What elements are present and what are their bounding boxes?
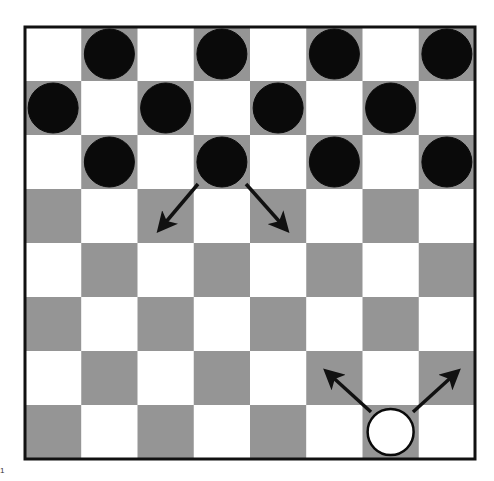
light-square[interactable] <box>306 405 363 460</box>
light-square[interactable] <box>194 405 251 460</box>
light-square[interactable] <box>138 135 195 190</box>
white-checker-piece[interactable] <box>368 409 414 455</box>
light-square[interactable] <box>306 297 363 352</box>
black-checker-piece[interactable] <box>366 83 416 133</box>
light-square[interactable] <box>81 405 138 460</box>
dark-square[interactable] <box>306 243 363 298</box>
light-square[interactable] <box>363 135 420 190</box>
black-checker-piece[interactable] <box>253 83 303 133</box>
light-square[interactable] <box>250 351 307 406</box>
dark-square[interactable] <box>194 351 251 406</box>
dark-square[interactable] <box>25 189 82 244</box>
light-square[interactable] <box>306 189 363 244</box>
light-square[interactable] <box>194 81 251 136</box>
black-checker-piece[interactable] <box>84 29 134 79</box>
light-square[interactable] <box>138 243 195 298</box>
dark-square[interactable] <box>363 297 420 352</box>
light-square[interactable] <box>138 351 195 406</box>
light-square[interactable] <box>250 135 307 190</box>
light-square[interactable] <box>419 81 476 136</box>
dark-square[interactable] <box>138 297 195 352</box>
light-square[interactable] <box>194 297 251 352</box>
black-checker-piece[interactable] <box>84 137 134 187</box>
black-checker-piece[interactable] <box>422 29 472 79</box>
light-square[interactable] <box>25 27 82 82</box>
black-checker-piece[interactable] <box>28 83 78 133</box>
dark-square[interactable] <box>363 189 420 244</box>
black-checker-piece[interactable] <box>422 137 472 187</box>
dark-square[interactable] <box>250 297 307 352</box>
light-square[interactable] <box>81 297 138 352</box>
light-square[interactable] <box>138 27 195 82</box>
light-square[interactable] <box>363 27 420 82</box>
black-checker-piece[interactable] <box>141 83 191 133</box>
checkers-diagram: 1 <box>0 0 494 481</box>
checkers-board <box>0 0 494 481</box>
light-square[interactable] <box>25 351 82 406</box>
figure-label: 1 <box>0 466 4 475</box>
light-square[interactable] <box>250 243 307 298</box>
dark-square[interactable] <box>25 405 82 460</box>
light-square[interactable] <box>363 243 420 298</box>
black-checker-piece[interactable] <box>309 29 359 79</box>
dark-square[interactable] <box>138 405 195 460</box>
dark-square[interactable] <box>194 243 251 298</box>
black-checker-piece[interactable] <box>309 137 359 187</box>
light-square[interactable] <box>419 297 476 352</box>
light-square[interactable] <box>25 135 82 190</box>
dark-square[interactable] <box>250 405 307 460</box>
black-checker-piece[interactable] <box>197 137 247 187</box>
dark-square[interactable] <box>81 351 138 406</box>
light-square[interactable] <box>81 81 138 136</box>
black-checker-piece[interactable] <box>197 29 247 79</box>
light-square[interactable] <box>419 405 476 460</box>
light-square[interactable] <box>81 189 138 244</box>
light-square[interactable] <box>419 189 476 244</box>
light-square[interactable] <box>25 243 82 298</box>
light-square[interactable] <box>250 27 307 82</box>
dark-square[interactable] <box>81 243 138 298</box>
dark-square[interactable] <box>25 297 82 352</box>
light-square[interactable] <box>363 351 420 406</box>
light-square[interactable] <box>194 189 251 244</box>
light-square[interactable] <box>306 81 363 136</box>
dark-square[interactable] <box>419 243 476 298</box>
